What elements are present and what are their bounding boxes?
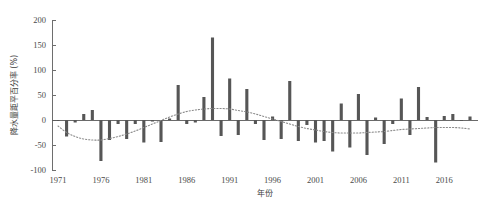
bar: [185, 120, 188, 124]
y-tick-label: 100: [33, 65, 46, 75]
x-tick-label: 1981: [135, 175, 152, 185]
y-tick-label: 50: [38, 90, 47, 100]
y-tick-label: 200: [33, 15, 46, 25]
bar: [159, 120, 162, 142]
bar: [297, 120, 300, 141]
bar: [468, 117, 471, 121]
y-tick-label: -50: [35, 140, 46, 150]
bar: [91, 110, 94, 120]
bar: [125, 120, 128, 139]
bar: [348, 120, 351, 148]
bar: [56, 120, 59, 121]
y-tick-label: 150: [33, 40, 46, 50]
bar: [314, 120, 317, 143]
bar: [460, 120, 463, 121]
bar: [228, 79, 231, 121]
bar: [451, 114, 454, 120]
bar: [374, 118, 377, 121]
bar: [74, 120, 77, 123]
bar: [331, 120, 334, 152]
precipitation-anomaly-chart: -100-50050100150200 19711976198119861991…: [0, 0, 482, 211]
x-tick-label: 1991: [221, 175, 238, 185]
chart-canvas: -100-50050100150200 19711976198119861991…: [0, 0, 482, 211]
bar: [305, 120, 308, 125]
x-tick-label: 1986: [178, 175, 195, 185]
bar: [426, 117, 429, 120]
x-tick-label: 1996: [264, 175, 281, 185]
y-tick-label: 0: [42, 115, 46, 125]
bar: [108, 120, 111, 140]
x-tick-label: 2001: [307, 175, 324, 185]
y-axis-title: 降水量距平百分率 (%): [9, 55, 19, 135]
bar: [391, 120, 394, 124]
x-tick-label: 2006: [350, 175, 367, 185]
y-tick-label: -100: [30, 165, 46, 175]
bar: [323, 120, 326, 141]
bar: [194, 120, 197, 123]
bar: [280, 120, 283, 139]
bar: [220, 120, 223, 136]
x-tick-label: 2016: [436, 175, 453, 185]
bar: [408, 120, 411, 135]
bar-series: [56, 38, 471, 163]
x-tick-label: 1976: [92, 175, 109, 185]
x-tick-label: 1971: [50, 175, 67, 185]
bar: [288, 81, 291, 120]
bar: [262, 120, 265, 140]
bar: [340, 104, 343, 121]
bar: [142, 120, 145, 143]
bar: [151, 120, 154, 122]
bar: [383, 120, 386, 144]
bar: [211, 38, 214, 121]
bar: [82, 114, 85, 120]
x-axis-title: 年份: [257, 188, 273, 198]
bar: [168, 119, 171, 121]
bar: [400, 99, 403, 121]
bar: [434, 120, 437, 163]
bar: [357, 94, 360, 120]
bar: [65, 120, 68, 137]
bar: [237, 120, 240, 135]
bar: [365, 120, 368, 155]
y-axis: -100-50050100150200: [30, 15, 56, 175]
bar: [134, 120, 137, 124]
bar: [117, 120, 120, 124]
bar: [254, 120, 257, 124]
bar: [443, 116, 446, 120]
bar: [417, 87, 420, 120]
x-tick-label: 2011: [393, 175, 410, 185]
bar: [245, 89, 248, 120]
